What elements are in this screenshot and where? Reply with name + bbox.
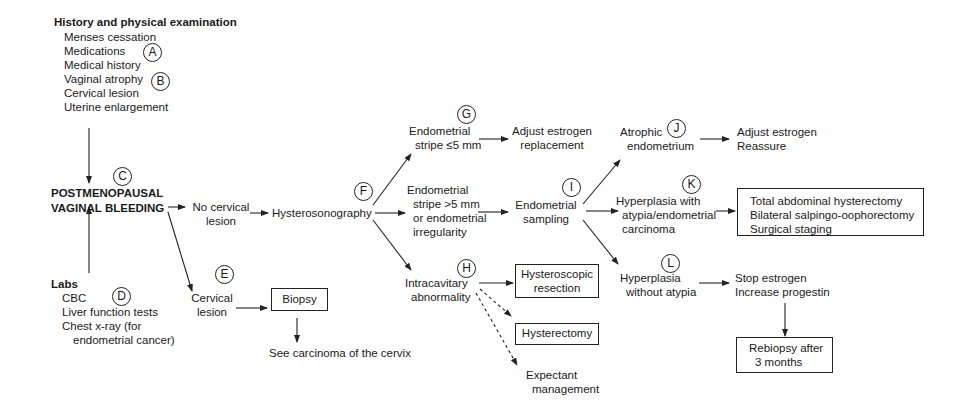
surgery-box: Total abdominal hysterectomy Bilateral s… [737, 188, 924, 236]
stripe-le5: Endometrial stripe ≤5 mm [409, 124, 481, 152]
stripe-gt5: Endometrial stripe >5 mm or endometrial … [407, 183, 487, 239]
history-heading: History and physical examination [54, 15, 237, 29]
history-item: Medical history [64, 58, 141, 72]
history-item: Uterine enlargement [64, 100, 168, 114]
expectant-management: Expectant management [526, 368, 599, 396]
history-item: Cervical lesion [64, 86, 139, 100]
hysterosonography: Hysterosonography [272, 206, 372, 220]
history-item: Vaginal atrophy [64, 72, 143, 86]
labs-item: endometrial cancer) [73, 333, 175, 347]
marker-i: I [562, 178, 581, 197]
labs-item: Chest x-ray (for [62, 319, 141, 333]
rebiopsy-box: Rebiopsy after 3 months [736, 337, 833, 373]
endometrial-sampling: Endometrial sampling [513, 198, 579, 226]
central-line1: POSTMENOPAUSAL [51, 186, 163, 200]
marker-c: C [113, 167, 132, 186]
biopsy-box: Biopsy [271, 288, 328, 311]
marker-k: K [682, 175, 701, 194]
central-line2: VAGINAL BLEEDING [51, 201, 164, 215]
hyperplasia-without-atypia: Hyperplasia without atypia [620, 271, 696, 299]
marker-f: F [354, 182, 373, 201]
history-item: Menses cessation [64, 30, 156, 44]
adjust-estrogen-reassure: Adjust estrogen Reassure [737, 125, 817, 153]
labs-item: CBC [62, 291, 86, 305]
cervical-lesion: Cervical lesion [188, 291, 236, 319]
adjust-estrogen-replacement: Adjust estrogen replacement [512, 124, 592, 152]
intracavitary-abnormality: Intracavitary abnormality [405, 276, 470, 304]
marker-a: A [143, 43, 162, 62]
hysterectomy-box: Hysterectomy [515, 323, 599, 345]
see-carcinoma-text: See carcinoma of the cervix [269, 346, 411, 360]
labs-item: Liver function tests [62, 305, 158, 319]
labs-heading: Labs [51, 277, 78, 291]
hyperplasia-with-atypia: Hyperplasia with atypia/endometrial carc… [616, 194, 716, 236]
history-item: Medications [64, 44, 125, 58]
marker-g: G [457, 105, 476, 124]
no-cervical-lesion: No cervical lesion [190, 200, 252, 228]
marker-j: J [667, 119, 686, 138]
marker-d: D [112, 287, 131, 306]
stop-estrogen: Stop estrogen Increase progestin [735, 271, 830, 299]
hysteroscopic-resection-box: Hysteroscopic resection [515, 264, 599, 298]
marker-e: E [215, 265, 234, 284]
marker-b: B [151, 72, 170, 91]
